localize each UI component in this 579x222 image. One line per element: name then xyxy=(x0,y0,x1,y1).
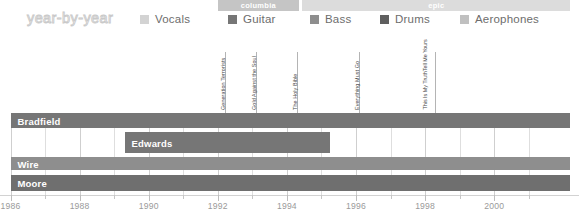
record-label-epic[interactable]: epic xyxy=(302,0,570,11)
annotation-label: This Is My TruthTell Me Yours xyxy=(424,40,430,110)
legend-swatch-icon xyxy=(380,15,389,24)
annotation-label-line: Tell Me Yours xyxy=(423,40,429,72)
axis-rule xyxy=(0,195,579,196)
legend-label: Vocals xyxy=(155,11,190,27)
page-title: year-by-year xyxy=(27,10,113,26)
year-by-year-chart: year-by-year VocalsGuitarBassDrumsAeroph… xyxy=(0,0,579,222)
member-row-moore[interactable]: Moore xyxy=(0,175,579,191)
legend-item-vocals[interactable]: Vocals xyxy=(140,11,190,27)
plot-area: BradfieldEdwardsWireMoore xyxy=(0,113,579,195)
annotation-leader-line xyxy=(435,52,436,114)
legend-swatch-icon xyxy=(460,15,469,24)
annotation-label: Generation Terrorists xyxy=(220,58,226,110)
member-name-label: Bradfield xyxy=(18,115,61,126)
axis-tick-label: 1998 xyxy=(415,201,435,211)
axis-tick-minor xyxy=(391,195,392,199)
legend-swatch-icon xyxy=(140,15,149,24)
legend-label: Guitar xyxy=(243,11,276,27)
legend-swatch-icon xyxy=(228,15,237,24)
member-name-label: Wire xyxy=(18,158,39,169)
axis-tick-minor xyxy=(45,195,46,199)
activity-bar[interactable] xyxy=(11,113,571,128)
axis-tick-minor xyxy=(252,195,253,199)
album-annotations: Generation TerroristsGold Against the So… xyxy=(0,48,579,114)
axis-tick-label: 2000 xyxy=(484,201,504,211)
member-row-wire[interactable]: Wire xyxy=(0,157,579,170)
legend-item-drums[interactable]: Drums xyxy=(380,11,430,27)
axis-tick-label: 1994 xyxy=(277,201,297,211)
record-label-text: columbia xyxy=(241,0,276,11)
member-row-edwards[interactable]: Edwards xyxy=(0,132,579,153)
album-annotation[interactable]: Generation Terrorists xyxy=(225,48,226,114)
legend-swatch-icon xyxy=(310,15,319,24)
legend-label: Aerophones xyxy=(475,11,539,27)
axis-tick-minor xyxy=(321,195,322,199)
annotation-label-line: This Is My Truth xyxy=(423,72,429,110)
legend-label: Drums xyxy=(395,11,430,27)
annotation-label: The Holy Bible xyxy=(292,74,298,110)
axis-tick-minor xyxy=(183,195,184,199)
axis-tick-minor xyxy=(114,195,115,199)
member-name-label: Moore xyxy=(18,178,48,189)
annotation-label: Gold Against the Soul xyxy=(251,56,257,110)
annotation-label: Everything Must Go xyxy=(354,61,360,110)
axis-tick-label: 1990 xyxy=(139,201,159,211)
axis-tick-label: 1996 xyxy=(346,201,366,211)
legend-item-aerophones[interactable]: Aerophones xyxy=(460,11,539,27)
axis-tick-label: 1988 xyxy=(70,201,90,211)
legend-label: Bass xyxy=(325,11,351,27)
album-annotation[interactable]: This Is My TruthTell Me Yours xyxy=(435,48,436,114)
legend-item-bass[interactable]: Bass xyxy=(310,11,351,27)
record-label-columbia[interactable]: columbia xyxy=(218,0,299,11)
axis-tick-minor xyxy=(529,195,530,199)
member-row-bradfield[interactable]: Bradfield xyxy=(0,113,579,128)
activity-bar[interactable] xyxy=(11,175,571,191)
legend-item-guitar[interactable]: Guitar xyxy=(228,11,276,27)
axis-tick-label: 1992 xyxy=(208,201,228,211)
x-axis: 19861988199019921994199619982000 xyxy=(0,195,579,222)
member-name-label: Edwards xyxy=(132,137,173,148)
album-annotation[interactable]: The Holy Bible xyxy=(297,48,298,114)
axis-tick-label: 1986 xyxy=(1,201,21,211)
activity-bar[interactable] xyxy=(11,157,571,170)
record-label-text: epic xyxy=(428,0,444,11)
axis-tick-minor xyxy=(460,195,461,199)
album-annotation[interactable]: Everything Must Go xyxy=(359,48,360,114)
album-annotation[interactable]: Gold Against the Soul xyxy=(256,48,257,114)
